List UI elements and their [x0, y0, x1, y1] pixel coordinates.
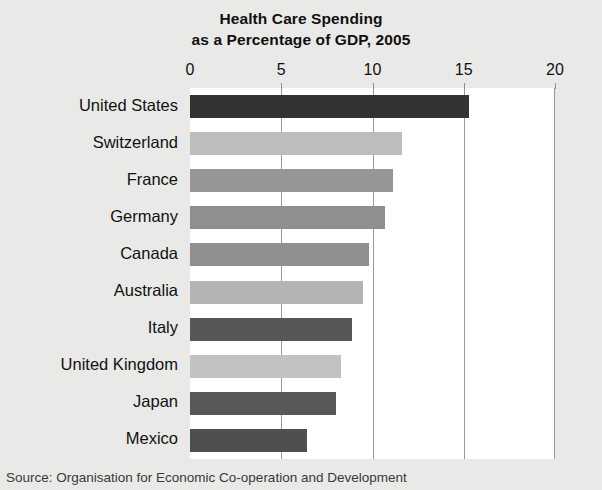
chart-figure: Health Care Spending as a Percentage of …: [0, 0, 602, 490]
x-tick-mark-10: [373, 83, 374, 89]
bar-italy: [190, 318, 352, 341]
x-tick-label-10: 10: [364, 61, 382, 79]
x-tick-mark-5: [281, 83, 282, 89]
category-label-italy: Italy: [0, 318, 183, 337]
gridline-15: [464, 88, 465, 459]
bar-canada: [190, 243, 369, 266]
gridline-20: [554, 88, 555, 459]
x-axis-tick-labels: 05101520: [0, 61, 602, 83]
x-tick-mark-20: [555, 83, 556, 89]
x-tick-label-15: 15: [455, 61, 473, 79]
x-tick-mark-15: [464, 83, 465, 89]
chart-title-line-2: as a Percentage of GDP, 2005: [0, 29, 602, 50]
bar-france: [190, 169, 393, 192]
bar-germany: [190, 206, 385, 229]
category-label-germany: Germany: [0, 207, 183, 226]
bar-australia: [190, 281, 363, 304]
y-axis-category-labels: United StatesSwitzerlandFranceGermanyCan…: [0, 88, 183, 459]
plot-area: [190, 88, 555, 459]
bar-united-kingdom: [190, 355, 341, 378]
x-tick-label-5: 5: [277, 61, 286, 79]
x-tick-label-20: 20: [546, 61, 564, 79]
bar-united-states: [190, 95, 469, 118]
category-label-mexico: Mexico: [0, 429, 183, 448]
bar-mexico: [190, 429, 307, 452]
source-note: Source: Organisation for Economic Co-ope…: [6, 470, 596, 490]
bar-japan: [190, 392, 336, 415]
chart-title-line-1: Health Care Spending: [0, 8, 602, 29]
bar-switzerland: [190, 132, 402, 155]
category-label-japan: Japan: [0, 392, 183, 411]
category-label-united-states: United States: [0, 96, 183, 115]
x-tick-label-0: 0: [186, 61, 195, 79]
category-label-australia: Australia: [0, 281, 183, 300]
category-label-france: France: [0, 170, 183, 189]
category-label-canada: Canada: [0, 244, 183, 263]
category-label-switzerland: Switzerland: [0, 133, 183, 152]
chart-title: Health Care Spending as a Percentage of …: [0, 8, 602, 50]
category-label-united-kingdom: United Kingdom: [0, 355, 183, 374]
